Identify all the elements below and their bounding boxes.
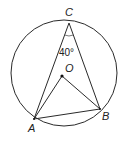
label-a: A: [27, 122, 35, 134]
point-b: [99, 108, 101, 110]
segment-oa: [34, 76, 62, 119]
label-c: C: [65, 6, 73, 18]
label-b: B: [102, 110, 109, 122]
segment-ca: [34, 23, 69, 119]
angle-label: 40°: [59, 47, 74, 58]
circle-diagram: C O A B 40°: [0, 0, 124, 144]
label-o: O: [65, 62, 74, 74]
angle-arc: [65, 35, 74, 36]
point-a: [33, 118, 35, 120]
center-point: [60, 74, 63, 77]
segment-ab: [34, 109, 100, 119]
